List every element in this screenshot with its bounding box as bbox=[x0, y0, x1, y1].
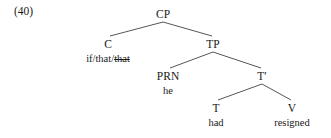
node-label-cp: CP bbox=[156, 8, 170, 21]
node-label-prn: PRN bbox=[157, 70, 179, 83]
tree-edge-cp-tp bbox=[163, 22, 212, 36]
tree-node-tbar: T′ bbox=[257, 70, 267, 83]
tree-node-v: Vresigned bbox=[274, 102, 310, 129]
tree-node-t: Thad bbox=[208, 102, 223, 129]
tree-edge-cp-c bbox=[110, 22, 163, 36]
tree-edge-tp-tbar bbox=[213, 52, 261, 68]
tree-edge-tbar-t bbox=[218, 84, 262, 100]
terminal-text-v: resigned bbox=[274, 116, 310, 129]
deleted-complementizer: that bbox=[114, 53, 130, 64]
tree-node-tp: TP bbox=[206, 38, 219, 51]
node-label-c: C bbox=[86, 38, 130, 51]
tree-edge-tp-prn bbox=[170, 52, 213, 68]
tree-node-cp: CP bbox=[156, 8, 170, 21]
tree-node-c: Cif/that/that bbox=[86, 38, 130, 65]
tree-edge-tbar-v bbox=[262, 84, 291, 100]
terminal-text-prn: he bbox=[157, 84, 179, 97]
node-label-tp: TP bbox=[206, 38, 219, 51]
syntax-tree-figure: (40) CPCif/that/thatTPPRNheT′ThadVresign… bbox=[0, 0, 331, 138]
terminal-text-c: if/that/that bbox=[86, 52, 130, 65]
node-label-tbar: T′ bbox=[257, 70, 267, 83]
node-label-t: T bbox=[208, 102, 223, 115]
terminal-text-t: had bbox=[208, 116, 223, 129]
complementizer-options: if/that/ bbox=[86, 53, 114, 64]
tree-node-prn: PRNhe bbox=[157, 70, 179, 97]
node-label-v: V bbox=[274, 102, 310, 115]
